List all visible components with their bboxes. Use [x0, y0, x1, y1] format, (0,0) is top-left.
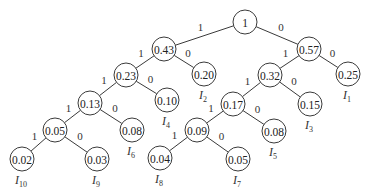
- edge-label: 0: [278, 21, 284, 33]
- node-value: 0.25: [338, 69, 358, 81]
- leaf-item-label: I6: [126, 144, 135, 160]
- tree-edge: [175, 26, 233, 45]
- leaf-item-label: I5: [268, 145, 277, 161]
- tree-edge: [65, 137, 87, 152]
- node-value: 0.17: [223, 99, 243, 111]
- leaf-item-label: I2: [198, 88, 207, 104]
- leaf-item-label: I3: [304, 118, 313, 134]
- edge-label: 1: [198, 21, 204, 33]
- edge-label: 1: [138, 47, 144, 59]
- leaf-item-label: I9: [91, 173, 100, 189]
- edge-label: 0: [77, 130, 83, 142]
- node-value: 0.23: [116, 70, 136, 82]
- node-value: 0.08: [264, 126, 284, 138]
- leaf-item-subscript: 9: [96, 180, 100, 189]
- node-value: 0.02: [12, 154, 32, 166]
- tree-node: 0.10: [155, 88, 179, 112]
- tree-node: 0.02: [10, 147, 34, 171]
- edge-label: 1: [32, 130, 38, 142]
- leaf-item-subscript: 3: [309, 125, 313, 134]
- tree-node: 0.23: [114, 63, 138, 87]
- leaf-item-subscript: 1: [347, 95, 351, 104]
- tree-node: 0.32: [258, 63, 282, 87]
- tree-edge: [256, 27, 298, 45]
- leaf-item-subscript: 8: [159, 179, 163, 188]
- node-value: 0.15: [300, 99, 320, 111]
- tree-node: 1: [233, 10, 257, 34]
- edge-label: 0: [219, 130, 225, 142]
- node-value: 0.32: [260, 70, 280, 82]
- tree-node: 0.13: [78, 91, 102, 115]
- edge-label: 1: [172, 129, 178, 141]
- leaf-item-subscript: 7: [237, 180, 241, 189]
- node-value: 0.05: [228, 154, 248, 166]
- tree-node: 0.08: [262, 119, 286, 143]
- edge-label: 0: [148, 73, 154, 85]
- tree-node: 0.08: [120, 118, 144, 142]
- edge-label: 0: [185, 47, 191, 59]
- edge-label: 1: [208, 102, 214, 114]
- node-value: 0.20: [194, 69, 214, 81]
- tree-node: 0.20: [192, 62, 216, 86]
- leaf-item-label: I4: [161, 114, 170, 130]
- tree-edge: [243, 111, 264, 125]
- edge-label: 1: [245, 75, 251, 87]
- tree-edge: [280, 82, 301, 97]
- tree-node: 0.43: [152, 37, 176, 61]
- tree-node: 0.05: [226, 147, 250, 171]
- tree-node: 0.57: [297, 37, 321, 61]
- edge-label: 0: [255, 103, 261, 115]
- node-value: 0.09: [187, 125, 207, 137]
- tree-node: 0.05: [43, 118, 67, 142]
- node-value: 0.03: [87, 154, 107, 166]
- leaf-item-subscript: 10: [19, 180, 27, 189]
- node-value: 0.05: [45, 125, 65, 137]
- leaf-item-label: I1: [342, 88, 351, 104]
- node-value: 0.43: [154, 44, 174, 56]
- node-value: 0.10: [157, 95, 177, 107]
- huffman-tree-diagram: 101010101010101010 10.430.570.230.200.32…: [0, 0, 368, 193]
- tree-node: 0.03: [85, 147, 109, 171]
- tree-edge: [100, 109, 122, 123]
- tree-node: 0.04: [148, 146, 172, 170]
- leaf-item-subscript: 2: [203, 95, 207, 104]
- node-value: 1: [242, 17, 248, 29]
- edge-label: 1: [66, 102, 72, 114]
- tree-nodes: 10.430.570.230.200.320.250.130.100.170.1…: [10, 10, 360, 171]
- tree-edge: [174, 55, 194, 67]
- tree-edge: [207, 137, 228, 152]
- edge-label: 0: [291, 75, 297, 87]
- tree-node: 0.25: [336, 62, 360, 86]
- edge-label: 1: [283, 47, 289, 59]
- leaf-item-label: I8: [154, 172, 163, 188]
- leaf-item-subscript: 6: [131, 151, 135, 160]
- edge-label: 0: [330, 47, 336, 59]
- tree-node: 0.15: [298, 92, 322, 116]
- leaf-item-subscript: 4: [166, 121, 170, 130]
- leaf-item-subscript: 5: [273, 152, 277, 161]
- edge-label: 1: [101, 74, 107, 86]
- node-value: 0.08: [122, 125, 142, 137]
- leaf-item-label: I7: [232, 173, 241, 189]
- node-value: 0.57: [299, 44, 319, 56]
- leaf-item-label: I10: [14, 173, 27, 189]
- node-value: 0.13: [80, 98, 100, 110]
- edge-labels: 101010101010101010: [32, 21, 336, 142]
- tree-edge: [136, 81, 157, 94]
- tree-node: 0.17: [221, 92, 245, 116]
- node-value: 0.04: [150, 153, 170, 165]
- edge-label: 0: [112, 102, 118, 114]
- tree-node: 0.09: [185, 118, 209, 142]
